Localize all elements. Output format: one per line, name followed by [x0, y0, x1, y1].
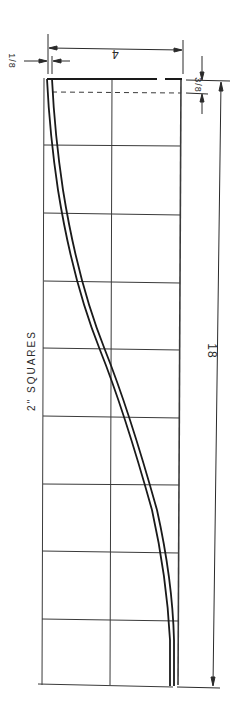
grid-row: [43, 484, 179, 485]
s-curve-outer: [47, 79, 170, 686]
grid-row: [44, 145, 181, 146]
length-label: 18: [205, 343, 219, 358]
width-label: 4: [111, 47, 119, 61]
grid-bottom-edge: [38, 684, 173, 687]
top-offset-label: 3/8: [193, 77, 203, 93]
dashed-offset-line: [52, 92, 181, 93]
grid-row: [44, 213, 181, 215]
grid-row: [44, 281, 180, 283]
side-offset-dimension: [24, 56, 70, 74]
grid-left-edge: [42, 78, 44, 685]
side-offset-label: 1/8: [7, 53, 17, 69]
grid-right-edge: [178, 78, 181, 685]
grid-row: [43, 416, 180, 418]
length-dimension: [177, 82, 223, 688]
grid-scale-label: 2" SQUARES: [26, 330, 37, 411]
